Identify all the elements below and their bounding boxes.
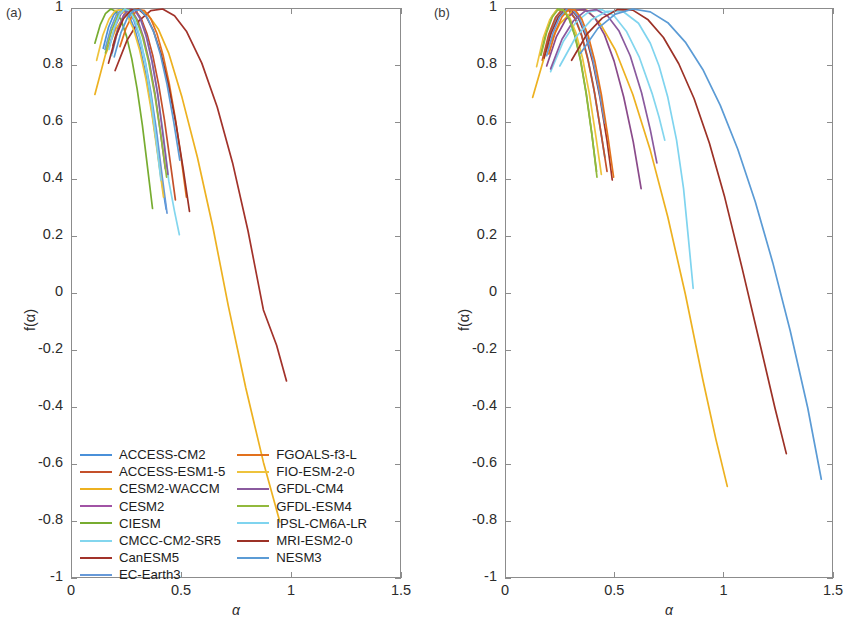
y-tick-mark [395, 407, 401, 408]
y-tick-mark [505, 8, 511, 9]
legend-item[interactable]: ACCESS-ESM1-5 [80, 463, 225, 480]
legend-item[interactable]: ACCESS-CM2 [80, 446, 225, 463]
y-tick-mark [827, 293, 833, 294]
legend-label: NESM3 [276, 549, 321, 566]
legend-color-swatch [80, 471, 112, 473]
x-tick-label: 0 [41, 582, 101, 598]
y-tick-label: -0.4 [11, 397, 63, 413]
y-tick-label: 0.6 [11, 112, 63, 128]
y-tick-mark [505, 521, 511, 522]
y-tick-mark [827, 464, 833, 465]
panel-b: (b) 10.80.60.40.20-0.2-0.4-0.6-0.8-1 00.… [428, 0, 857, 626]
y-tick-mark [71, 464, 77, 465]
y-tick-label: -0.6 [445, 454, 497, 470]
y-tick-label: -0.4 [445, 397, 497, 413]
legend-color-swatch [237, 505, 269, 507]
legend-item[interactable]: CESM2-WACCM [80, 480, 225, 497]
x-tick-label: 0.5 [584, 582, 644, 598]
y-tick-mark [505, 407, 511, 408]
plot-area-b [505, 8, 833, 578]
legend-item[interactable]: IPSL-CM6A-LR [237, 515, 367, 532]
x-tick-mark [723, 8, 724, 14]
legend-label: FIO-ESM-2-0 [276, 463, 354, 480]
legend-color-swatch [237, 522, 269, 524]
y-tick-mark [505, 464, 511, 465]
y-tick-mark [71, 521, 77, 522]
y-tick-label: 0.8 [445, 55, 497, 71]
y-tick-label: 0.8 [11, 55, 63, 71]
legend-label: ACCESS-ESM1-5 [119, 463, 225, 480]
legend-label: CanESM5 [119, 549, 179, 566]
figure-root: (a) 10.80.60.40.20-0.2-0.4-0.6-0.8-1 00.… [0, 0, 857, 626]
y-tick-mark [505, 122, 511, 123]
x-tick-label: 1 [694, 582, 754, 598]
y-tick-mark [827, 236, 833, 237]
legend-color-swatch [80, 557, 112, 559]
legend-label: EC-Earth3 [119, 566, 181, 583]
legend-item[interactable]: CIESM [80, 515, 225, 532]
x-tick-mark [505, 572, 506, 578]
y-tick-label: -0.6 [11, 454, 63, 470]
x-tick-mark [723, 572, 724, 578]
legend-label: CESM2 [119, 498, 164, 515]
legend-item[interactable]: NESM3 [237, 549, 367, 566]
y-tick-label: -0.8 [445, 511, 497, 527]
legend-item[interactable]: CMCC-CM2-SR5 [80, 532, 225, 549]
y-tick-label: -0.2 [11, 340, 63, 356]
legend-item[interactable]: GFDL-CM4 [237, 480, 367, 497]
legend-color-swatch [80, 488, 112, 490]
legend-item[interactable]: EC-Earth3 [80, 566, 225, 583]
legend-label: GFDL-ESM4 [276, 498, 351, 515]
y-tick-mark [505, 236, 511, 237]
y-tick-mark [827, 407, 833, 408]
y-tick-mark [71, 293, 77, 294]
legend-color-swatch [80, 454, 112, 456]
legend-label: CIESM [119, 515, 161, 532]
y-tick-mark [71, 578, 77, 579]
curve-canesm5 [115, 9, 286, 381]
y-tick-mark [395, 464, 401, 465]
y-tick-label: -0.2 [445, 340, 497, 356]
legend-color-swatch [237, 540, 269, 542]
legend-color-swatch [80, 505, 112, 507]
x-tick-mark [505, 8, 506, 14]
y-tick-mark [71, 122, 77, 123]
y-tick-mark [395, 293, 401, 294]
y-tick-label: -0.8 [11, 511, 63, 527]
legend-item[interactable]: CanESM5 [80, 549, 225, 566]
legend-color-swatch [237, 471, 269, 473]
legend-item[interactable]: FIO-ESM-2-0 [237, 463, 367, 480]
curves-b [506, 9, 834, 579]
x-tick-mark [833, 572, 834, 578]
legend-color-swatch [80, 574, 112, 576]
legend-label: ACCESS-CM2 [119, 446, 205, 463]
y-tick-mark [827, 65, 833, 66]
x-tick-mark [71, 572, 72, 578]
y-tick-label: 0.2 [445, 226, 497, 242]
y-tick-mark [395, 521, 401, 522]
legend-label: CMCC-CM2-SR5 [119, 532, 221, 549]
curve-cesm2-waccm [533, 10, 728, 486]
panel-a: (a) 10.80.60.40.20-0.2-0.4-0.6-0.8-1 00.… [0, 0, 428, 626]
x-tick-mark [401, 8, 402, 14]
x-tick-label: 0.5 [151, 582, 211, 598]
x-axis-title-a: α [71, 602, 401, 618]
legend-item[interactable]: FGOALS-f3-L [237, 446, 367, 463]
legend-item[interactable]: CESM2 [80, 498, 225, 515]
y-tick-mark [827, 521, 833, 522]
y-tick-mark [395, 236, 401, 237]
x-tick-mark [614, 8, 615, 14]
y-tick-mark [505, 350, 511, 351]
legend-label: GFDL-CM4 [276, 480, 343, 497]
legend-item[interactable]: MRI-ESM2-0 [237, 532, 367, 549]
y-tick-mark [71, 65, 77, 66]
legend-label: MRI-ESM2-0 [276, 532, 352, 549]
x-tick-label: 1 [261, 582, 321, 598]
y-tick-label: 0.4 [11, 169, 63, 185]
y-tick-mark [505, 179, 511, 180]
y-tick-mark [71, 350, 77, 351]
legend-item[interactable]: GFDL-ESM4 [237, 498, 367, 515]
y-tick-mark [71, 236, 77, 237]
x-tick-mark [401, 572, 402, 578]
curve-cesm2 [547, 10, 641, 189]
